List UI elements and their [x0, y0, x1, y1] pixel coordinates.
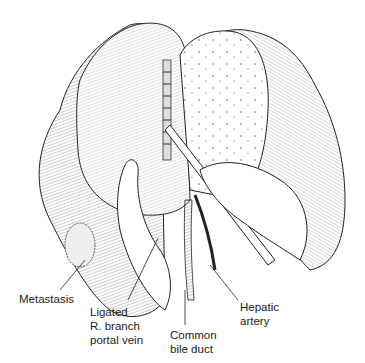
label-ligated-portal-vein: Ligated R. branch portal vein — [90, 305, 143, 347]
hepatic-artery-vessel — [195, 195, 215, 270]
label-common-bile-duct: Common bile duct — [170, 328, 217, 356]
label-hepatic-artery: Hepatic artery — [240, 300, 279, 328]
bile-duct-vessel — [184, 200, 194, 300]
label-metastasis: Metastasis — [19, 292, 74, 306]
suture-line — [163, 60, 171, 160]
leader-line-hepatic-artery — [210, 265, 238, 300]
metastasis-lesion — [65, 223, 95, 267]
liver-surgery-illustration — [0, 0, 365, 363]
